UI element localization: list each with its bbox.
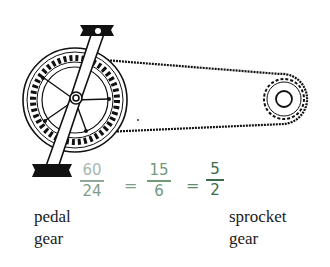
lower-pedal — [32, 164, 72, 177]
pedal-gear-label-line1: pedal — [34, 208, 71, 225]
fraction-denominator: 2 — [210, 183, 220, 198]
fraction-15-6: 15 6 — [147, 163, 171, 199]
fraction-5-2: 5 2 — [206, 162, 224, 198]
fraction-numerator: 60 — [82, 163, 101, 178]
sprocket-gear-label-line2: gear — [229, 230, 258, 247]
sprocket-gear-label-line1: sprocket — [229, 208, 287, 225]
fraction-numerator: 5 — [210, 162, 220, 177]
fraction-60-24: 60 24 — [80, 163, 104, 199]
chain-mark-dot — [137, 119, 139, 121]
fraction-numerator: 15 — [149, 163, 168, 178]
equals-sign: = — [186, 176, 199, 195]
fraction-denominator: 24 — [82, 184, 101, 199]
upper-pedal — [80, 25, 114, 36]
fraction-denominator: 6 — [154, 184, 164, 199]
sprocket-gear — [264, 79, 304, 119]
bicycle-gear-diagram — [0, 0, 330, 267]
pedal-gear-label-line2: gear — [34, 230, 63, 247]
equals-sign: = — [124, 176, 137, 195]
